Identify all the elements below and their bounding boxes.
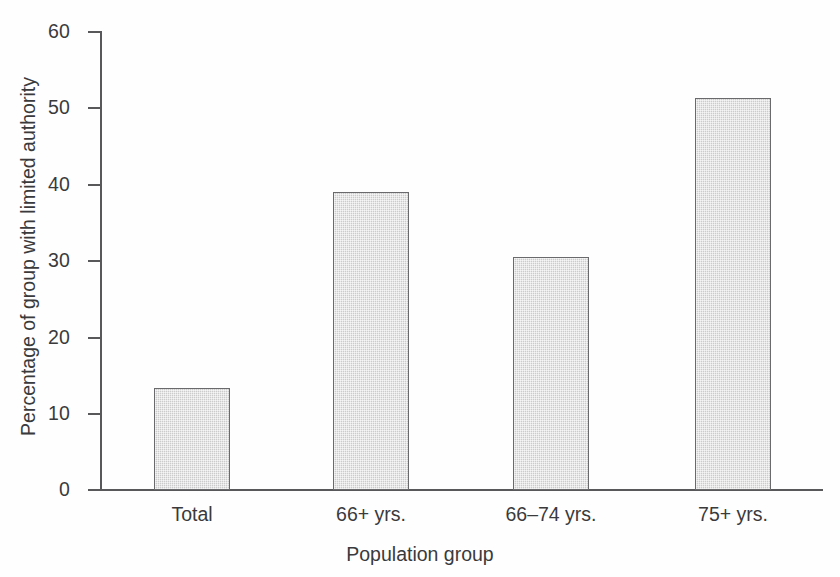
y-tick-label-40: 40 <box>24 173 70 196</box>
y-tick-mark-10 <box>88 413 100 415</box>
x-category-label-75-plus: 75+ yrs. <box>698 503 768 526</box>
plot-area <box>100 31 823 490</box>
y-tick-mark-0 <box>88 489 100 491</box>
y-tick-mark-40 <box>88 184 100 186</box>
bar-75-plus <box>695 98 771 490</box>
bar-total <box>154 388 230 490</box>
x-category-label-66-74: 66–74 yrs. <box>505 503 596 526</box>
y-tick-label-50: 50 <box>24 96 70 119</box>
figure: Percentage of group with limited authori… <box>0 0 840 577</box>
y-tick-label-30: 30 <box>24 249 70 272</box>
y-tick-label-0: 0 <box>24 478 70 501</box>
y-tick-label-60: 60 <box>24 20 70 43</box>
y-tick-label-20: 20 <box>24 326 70 349</box>
y-tick-mark-30 <box>88 260 100 262</box>
bar-66-plus <box>333 192 409 490</box>
y-tick-mark-20 <box>88 337 100 339</box>
bar-66-74 <box>513 257 589 490</box>
x-category-label-66-plus: 66+ yrs. <box>336 503 406 526</box>
y-tick-mark-60 <box>88 31 100 33</box>
x-category-label-total: Total <box>171 503 212 526</box>
y-tick-mark-50 <box>88 107 100 109</box>
y-tick-label-10: 10 <box>24 402 70 425</box>
x-axis-title: Population group <box>0 543 840 566</box>
